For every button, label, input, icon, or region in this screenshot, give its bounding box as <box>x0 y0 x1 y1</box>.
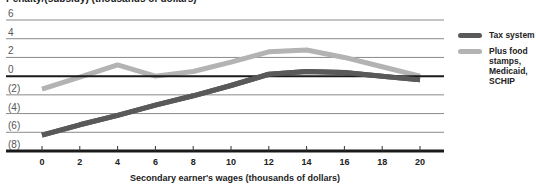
x-tick-label: 14 <box>302 157 312 167</box>
legend-item-plus-food-stamps: Plus food stamps, Medicaid, SCHIP <box>458 46 536 86</box>
x-tick-label: 16 <box>339 157 349 167</box>
x-tick-label: 12 <box>264 157 274 167</box>
y-tick-label: (2) <box>8 83 20 94</box>
series-line-tax-system <box>42 71 420 135</box>
y-tick-label: 4 <box>8 27 14 38</box>
x-tick-label: 0 <box>39 157 44 167</box>
x-tick-label: 2 <box>77 157 82 167</box>
legend-item-tax-system: Tax system <box>458 30 536 40</box>
y-tick-label: (6) <box>8 120 20 131</box>
x-tick-label: 4 <box>115 157 120 167</box>
y-tick-label: 2 <box>8 45 14 56</box>
legend-label: Plus food stamps, Medicaid, SCHIP <box>489 46 528 86</box>
legend-swatch-tax-system <box>458 33 482 38</box>
x-axis-title: Secondary earner's wages (thousands of d… <box>0 173 470 183</box>
series-line <box>42 71 420 135</box>
x-tick-label: 18 <box>377 157 387 167</box>
y-tick-label: 0 <box>8 64 14 75</box>
legend: Tax system Plus food stamps, Medicaid, S… <box>458 30 536 92</box>
x-tick-label: 6 <box>153 157 158 167</box>
legend-label: Tax system <box>489 30 535 40</box>
line-chart: 6420(2)(4)(6)(8)02468101214161820 <box>0 0 536 189</box>
y-tick-label: 6 <box>8 8 14 19</box>
x-tick-label: 20 <box>415 157 425 167</box>
y-tick-label: (4) <box>8 102 20 113</box>
x-tick-label: 8 <box>191 157 196 167</box>
legend-swatch-plus-food-stamps <box>458 49 482 54</box>
y-tick-label: (8) <box>8 139 20 150</box>
x-tick-label: 10 <box>226 157 236 167</box>
